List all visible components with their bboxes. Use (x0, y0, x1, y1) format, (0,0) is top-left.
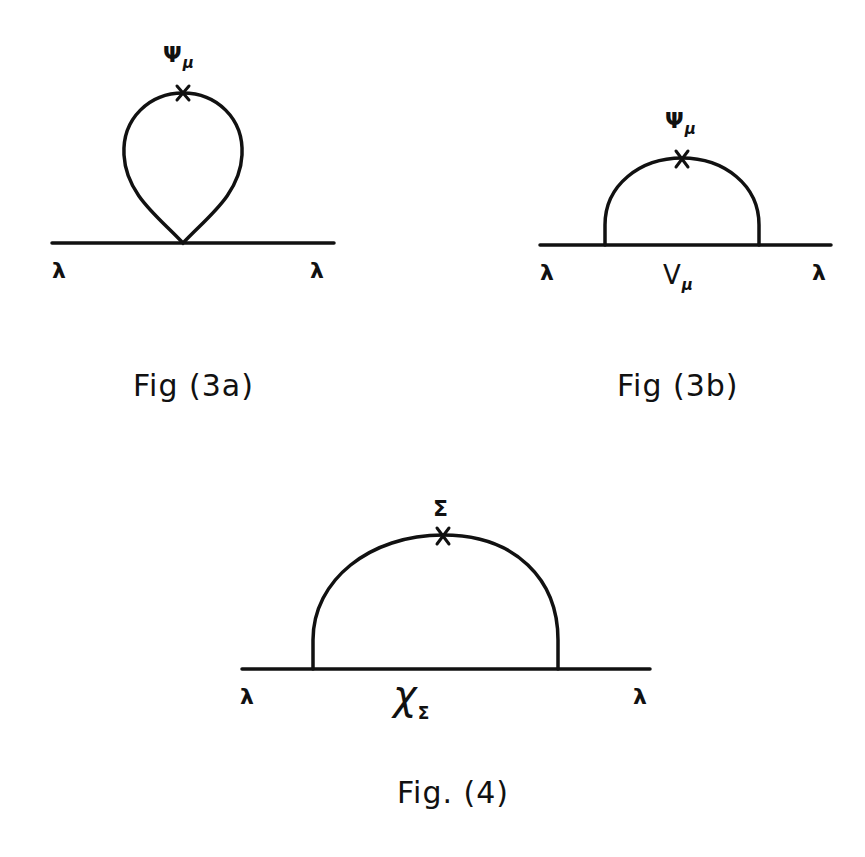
fig3b-lambda-right: λ (812, 260, 826, 285)
fig3a-caption: Fig (3a) (133, 368, 254, 403)
fig3a-insertion-label: Ψμ (163, 42, 194, 67)
fig3b-lambda-left: λ (540, 260, 554, 285)
fig4-loop (313, 535, 558, 669)
fig4-lambda-right: λ (633, 684, 647, 709)
fig3a-tadpole-loop (124, 93, 242, 243)
fig3a-lambda-right: λ (310, 258, 324, 283)
fig3b-caption: Fig (3b) (617, 368, 739, 403)
fig4-insertion-label: Σ (433, 496, 448, 521)
fig4-caption: Fig. (4) (397, 775, 509, 810)
fig3b-loop (605, 158, 759, 245)
fig3a-lambda-left: λ (52, 258, 66, 283)
fig3b-internal-label: Vμ (663, 260, 693, 290)
feynman-diagrams (0, 0, 865, 857)
fig3b-insertion-label: Ψμ (665, 108, 696, 133)
fig4-lambda-left: λ (240, 684, 254, 709)
fig4-internal-label: χΣ (393, 672, 429, 718)
